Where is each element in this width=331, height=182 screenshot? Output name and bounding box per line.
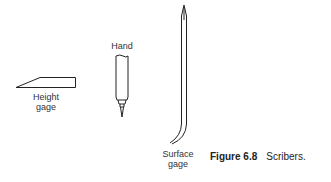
- height-gage-label-line1: Height: [28, 92, 64, 102]
- figure-number: Figure 6.8: [210, 151, 257, 162]
- hand-scriber: [116, 55, 128, 117]
- surface-gage-label-line1: Surface: [158, 149, 198, 159]
- figure-caption: Figure 6.8Scribers.: [210, 151, 306, 162]
- surface-gage-label-line2: gage: [158, 159, 198, 169]
- height-gage-label-line2: gage: [28, 102, 64, 112]
- height-gage-scriber: [16, 78, 76, 88]
- height-gage-label: Height gage: [28, 92, 64, 112]
- hand-label-line1: Hand: [106, 41, 138, 51]
- figure-caption-text: Scribers.: [266, 151, 305, 162]
- surface-gage-scriber: [170, 5, 187, 144]
- hand-label: Hand: [106, 41, 138, 51]
- surface-gage-label: Surface gage: [158, 149, 198, 169]
